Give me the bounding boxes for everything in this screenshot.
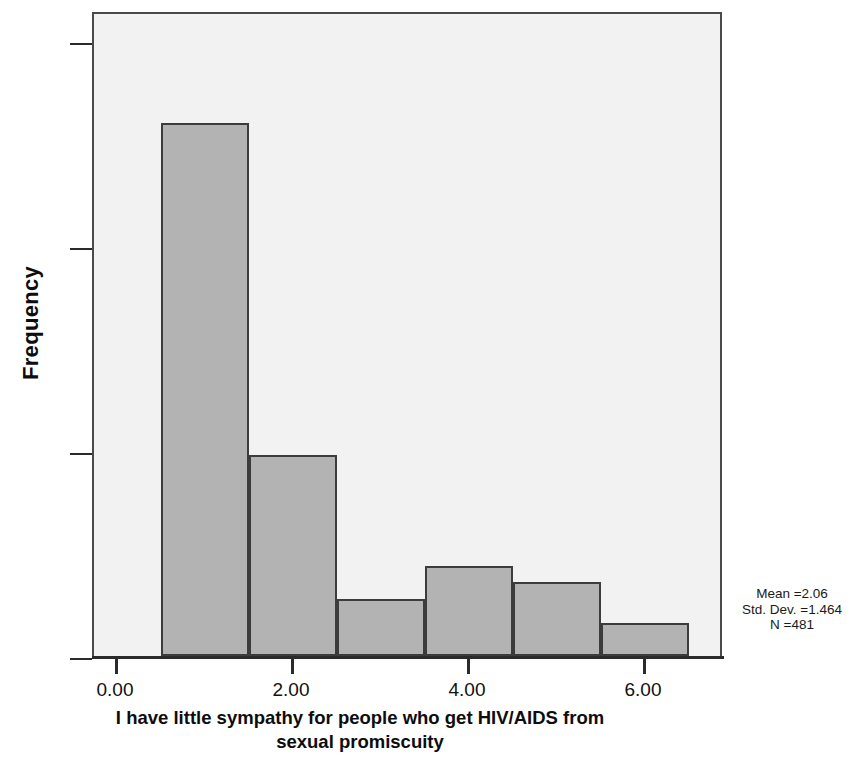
- x-axis-tick: [115, 658, 118, 674]
- histogram-bar: [513, 582, 601, 656]
- histogram-figure: 3002001000 Frequency 0.002.004.006.00 I …: [0, 0, 855, 767]
- y-axis-tick: [70, 453, 92, 455]
- stat-std-dev: Std. Dev. =1.464: [733, 602, 851, 618]
- stats-annotation: Mean =2.06 Std. Dev. =1.464 N =481: [733, 586, 851, 633]
- stat-mean: Mean =2.06: [733, 586, 851, 602]
- x-axis-tick: [643, 658, 646, 674]
- x-axis-tick-label: 6.00: [588, 679, 698, 701]
- x-axis-title: I have little sympathy for people who ge…: [75, 706, 645, 754]
- x-axis-tick-label: 4.00: [412, 679, 522, 701]
- plot-area: [92, 12, 722, 658]
- bars-layer: [94, 14, 720, 656]
- y-axis-tick: [70, 658, 92, 660]
- stat-n: N =481: [733, 617, 851, 633]
- x-axis-tick-label: 0.00: [60, 679, 170, 701]
- histogram-bar: [161, 123, 249, 656]
- y-axis-tick: [70, 43, 92, 45]
- histogram-bar: [425, 566, 513, 656]
- y-axis-tick: [70, 248, 92, 250]
- x-axis-title-line-2: sexual promiscuity: [75, 730, 645, 754]
- x-axis-tick: [467, 658, 470, 674]
- histogram-bar: [249, 455, 337, 656]
- x-axis-tick: [291, 658, 294, 674]
- x-axis-title-line-1: I have little sympathy for people who ge…: [75, 706, 645, 730]
- histogram-bar: [601, 623, 689, 656]
- x-axis-tick-label: 2.00: [236, 679, 346, 701]
- y-axis-title: Frequency: [18, 223, 44, 423]
- x-axis-line: [92, 656, 724, 659]
- histogram-bar: [337, 599, 425, 656]
